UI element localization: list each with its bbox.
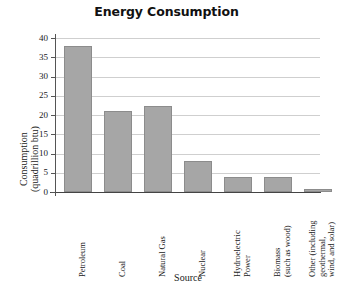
bar-coal	[104, 111, 132, 192]
y-tick-label: 25	[30, 91, 48, 100]
bar-hydroelectric-power	[224, 177, 252, 192]
y-axis-title: Consumption (quadrillion btu)	[18, 126, 40, 192]
x-tick-labels: Petroleum Coal Natural Gas Nuclear Hydro…	[56, 193, 320, 281]
bar-natural-gas	[144, 106, 172, 192]
x-tick-label-biomass: Biomass (such as wood)	[273, 226, 292, 277]
x-tick-label-natural-gas: Natural Gas	[158, 236, 168, 277]
x-axis-title: Source	[56, 272, 320, 283]
x-tick-label-hydroelectric-power: Hydroelectric Power	[233, 230, 252, 277]
x-tick-label-other: Other (including geothermal, wind, and s…	[308, 221, 337, 277]
bar-other	[304, 189, 332, 192]
bar-biomass	[264, 177, 292, 192]
y-tick-label: 35	[30, 53, 48, 62]
y-axis-title-wrap: Consumption (quadrillion btu)	[6, 38, 30, 192]
y-tick-label: 20	[30, 111, 48, 120]
bar-petroleum	[64, 46, 92, 192]
bar-nuclear	[184, 161, 212, 192]
chart-title: Energy Consumption	[0, 4, 333, 19]
y-tick-label: 40	[30, 34, 48, 43]
y-tick-label: 30	[30, 72, 48, 81]
bars-layer	[56, 38, 320, 192]
